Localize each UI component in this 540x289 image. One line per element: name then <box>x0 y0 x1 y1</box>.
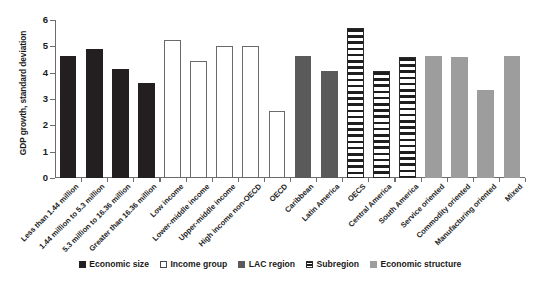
y-axis-title: GDP growth, standard deviation <box>18 8 28 178</box>
legend-item-economic-structure[interactable]: Economic structure <box>370 259 461 269</box>
legend-swatch-icon <box>160 261 167 268</box>
legend-item-economic-size[interactable]: Economic size <box>79 259 149 269</box>
x-axis-labels: Less than 1.44 million1.44 million to 5.… <box>55 182 540 248</box>
legend-item-lac-region[interactable]: LAC region <box>238 259 295 269</box>
chart-legend: Economic sizeIncome groupLAC regionSubre… <box>0 259 540 269</box>
y-tick-label: 4 <box>43 68 48 78</box>
y-tick-mark <box>50 178 55 179</box>
y-tick-label: 5 <box>43 42 48 52</box>
chart-figure: GDP growth, standard deviation 0123456 L… <box>0 0 540 289</box>
legend-label: Income group <box>170 259 227 269</box>
legend-item-income-group[interactable]: Income group <box>160 259 227 269</box>
y-tick-label: 2 <box>43 121 48 131</box>
legend-label: Subregion <box>317 259 360 269</box>
legend-swatch-icon <box>306 261 313 268</box>
legend-label: Economic structure <box>381 259 462 269</box>
legend-label: LAC region <box>249 259 295 269</box>
legend-swatch-icon <box>370 261 377 268</box>
y-tick-label: 6 <box>43 15 48 25</box>
legend-item-subregion[interactable]: Subregion <box>306 259 359 269</box>
y-tick-label: 1 <box>43 147 48 157</box>
legend-label: Economic size <box>89 259 149 269</box>
legend-swatch-icon <box>79 261 86 268</box>
bar <box>373 71 390 178</box>
bar <box>295 56 312 178</box>
y-tick-label: 0 <box>43 173 48 183</box>
y-tick-label: 3 <box>43 94 48 104</box>
bar <box>60 56 77 178</box>
legend-swatch-icon <box>238 261 245 268</box>
